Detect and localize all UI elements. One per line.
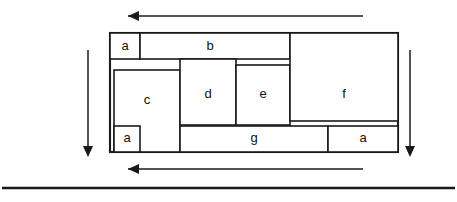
arrow-top-head bbox=[128, 11, 139, 21]
block-f: f bbox=[290, 33, 398, 121]
block-a-bottom-right: a bbox=[328, 126, 398, 152]
block-e: e bbox=[236, 65, 290, 125]
arrow-bottom-head bbox=[128, 164, 139, 174]
diagram-canvas: abacadefga bbox=[0, 0, 457, 202]
block-label-b: b bbox=[206, 38, 213, 53]
block-label-a-bottom-right: a bbox=[359, 130, 367, 145]
block-d: d bbox=[180, 59, 236, 125]
block-packing-diagram: abacadefga bbox=[0, 0, 457, 202]
block-label-f: f bbox=[342, 86, 346, 101]
block-rect-f bbox=[290, 33, 398, 121]
block-label-a-in-c: a bbox=[123, 130, 131, 145]
block-label-a-top-left: a bbox=[121, 38, 129, 53]
arrow-left-head bbox=[83, 146, 93, 157]
block-label-e: e bbox=[259, 86, 266, 101]
block-a-top-left: a bbox=[110, 33, 140, 59]
block-label-g: g bbox=[250, 130, 257, 145]
arrow-left bbox=[83, 50, 93, 157]
arrow-top bbox=[128, 11, 363, 21]
block-label-d: d bbox=[204, 86, 211, 101]
arrow-bottom bbox=[128, 164, 363, 174]
block-g: g bbox=[180, 126, 328, 152]
block-b: b bbox=[140, 33, 290, 59]
arrow-right-head bbox=[405, 146, 415, 157]
block-rect-b bbox=[140, 33, 290, 59]
arrow-right bbox=[405, 50, 415, 157]
block-a-in-c: a bbox=[114, 126, 140, 152]
block-label-c: c bbox=[144, 92, 151, 107]
